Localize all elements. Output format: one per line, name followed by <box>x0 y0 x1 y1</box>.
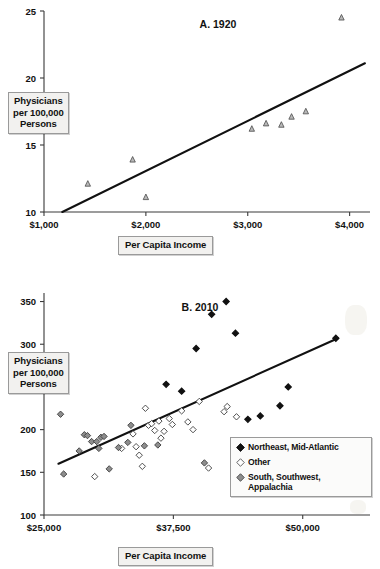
data-point-triangle <box>143 194 148 200</box>
x-tick-label: $3,000 <box>233 219 262 230</box>
x-tick-label: $50,000 <box>286 522 320 533</box>
data-point-filled-diamond <box>257 413 263 419</box>
data-point-open-diamond <box>133 443 139 449</box>
y-axis-label-line-2: per 100,000 <box>13 367 64 379</box>
x-tick-label: $4,000 <box>335 219 364 230</box>
data-point-gray-diamond <box>155 442 161 448</box>
data-point-triangle <box>303 108 308 114</box>
y-axis-label-line-2: per 100,000 <box>13 107 64 119</box>
legend-label-line-1: South, Southwest, <box>248 472 320 482</box>
data-point-open-diamond <box>190 426 196 432</box>
data-point-triangle <box>289 114 294 120</box>
data-point-open-diamond <box>169 421 175 427</box>
legend-item-south-southwest-appalachia: South, Southwest,Appalachia <box>236 472 368 492</box>
data-point-open-diamond <box>166 415 172 421</box>
y-axis-label-line-1: Physicians <box>13 355 64 367</box>
data-point-filled-diamond <box>285 384 291 390</box>
y-axis-label-line-3: Persons <box>13 378 64 390</box>
y-tick-label: 300 <box>20 339 36 350</box>
data-point-gray-diamond <box>94 438 100 444</box>
data-point-open-diamond <box>92 473 98 479</box>
data-point-open-diamond <box>161 428 167 434</box>
data-point-gray-diamond <box>128 422 134 428</box>
data-point-open-diamond <box>158 435 164 441</box>
data-point-triangle <box>279 122 284 128</box>
data-point-filled-diamond <box>277 403 283 409</box>
data-point-open-diamond <box>152 427 158 433</box>
x-tick-label: $1,000 <box>29 219 58 230</box>
data-point-triangle <box>130 157 135 163</box>
data-point-gray-diamond <box>201 460 207 466</box>
trend-line <box>62 63 365 212</box>
data-point-open-diamond <box>136 452 142 458</box>
data-point-filled-diamond <box>245 416 251 422</box>
y-axis-label-2010: Physicians per 100,000 Persons <box>8 352 69 394</box>
scan-artifact <box>345 305 367 335</box>
y-tick-label: 100 <box>20 510 36 521</box>
data-point-open-diamond <box>185 419 191 425</box>
data-point-triangle <box>85 181 90 187</box>
data-point-open-diamond <box>233 414 239 420</box>
scatter-plot-2010: 100150200300350$25,000$37,500$50,000B. 2… <box>0 258 380 569</box>
y-tick-label: 150 <box>20 467 36 478</box>
data-point-filled-diamond <box>179 388 185 394</box>
y-tick-label: 15 <box>25 140 36 151</box>
legend-label-line-2: Appalachia <box>248 482 292 492</box>
data-point-gray-diamond <box>106 466 112 472</box>
chart-panel-2010: 100150200300350$25,000$37,500$50,000B. 2… <box>0 258 380 569</box>
x-tick-label: $25,000 <box>27 522 61 533</box>
legend-item-other: Other <box>236 457 368 469</box>
legend-label: Northeast, Mid-Atlantic <box>248 442 368 452</box>
y-tick-label: 25 <box>25 6 36 17</box>
data-point-triangle <box>263 120 268 126</box>
y-tick-label: 200 <box>20 424 36 435</box>
y-axis-label-1920: Physicians per 100,000 Persons <box>8 92 69 134</box>
data-point-filled-diamond <box>163 381 169 387</box>
y-axis-label-line-1: Physicians <box>13 95 64 107</box>
data-point-triangle <box>249 126 254 132</box>
x-tick-label: $2,000 <box>131 219 160 230</box>
chart-title: A. 1920 <box>200 18 237 30</box>
y-tick-label: 20 <box>25 73 36 84</box>
data-point-open-diamond <box>205 465 211 471</box>
data-point-filled-diamond <box>193 346 199 352</box>
data-point-filled-diamond <box>223 299 229 305</box>
legend-2010: Northeast, Mid-Atlantic Other South, Sou… <box>230 437 372 497</box>
filled-diamond-icon <box>236 442 248 454</box>
open-diamond-icon <box>236 457 248 469</box>
data-point-gray-diamond <box>60 471 66 477</box>
x-tick-label: $37,500 <box>156 522 190 533</box>
data-point-open-diamond <box>139 463 145 469</box>
legend-label: Other <box>248 457 368 467</box>
data-point-triangle <box>339 14 344 20</box>
data-point-gray-diamond <box>141 443 147 449</box>
legend-label: South, Southwest,Appalachia <box>248 472 368 492</box>
scan-artifact <box>350 500 366 514</box>
y-axis-label-line-3: Persons <box>13 118 64 130</box>
plot-axes <box>44 11 370 212</box>
data-point-open-diamond <box>142 405 148 411</box>
data-point-gray-diamond <box>57 411 63 417</box>
data-point-filled-diamond <box>232 330 238 336</box>
y-tick-label: 10 <box>25 207 36 218</box>
x-axis-label-2010: Per Capita Income <box>118 547 213 566</box>
chart-title: B. 2010 <box>182 301 219 313</box>
legend-item-northeast-mid-atlantic: Northeast, Mid-Atlantic <box>236 442 368 454</box>
gray-diamond-icon <box>236 472 248 484</box>
y-tick-label: 350 <box>20 296 36 307</box>
data-point-gray-diamond <box>125 439 131 445</box>
x-axis-label-1920: Per Capita Income <box>118 236 213 255</box>
chart-panel-1920: 10152025$1,000$2,000$3,000$4,000A. 1920 … <box>0 0 380 258</box>
